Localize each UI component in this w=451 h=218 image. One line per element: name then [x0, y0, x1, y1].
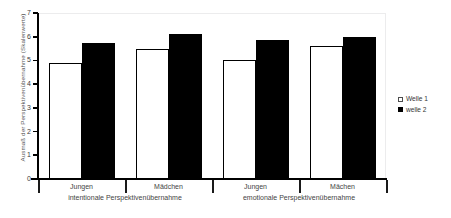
bar-welle-2 [169, 34, 202, 179]
legend-label-welle-1: Welle 1 [406, 96, 428, 103]
x-axis-label: Mächen [299, 183, 386, 191]
group-separator-tick [38, 180, 40, 193]
y-axis-tick-label: 2 [20, 128, 31, 135]
y-axis-tick-label: 1 [20, 151, 31, 158]
x-axis-label: Jungen [212, 183, 299, 191]
bar-group [125, 13, 212, 179]
bar-welle-1 [310, 46, 343, 179]
bar-welle-2 [256, 40, 289, 179]
y-axis-tick-label: 7 [20, 9, 31, 16]
legend-item-welle-2: welle 2 [398, 107, 428, 114]
group-separator-tick [212, 180, 214, 193]
bar-chart: Ausmaß der Perspektivenübernahme (Skalen… [0, 0, 451, 218]
bar-group [212, 13, 299, 179]
y-axis-tick-label: 0 [20, 175, 31, 182]
y-axis-tick-label: 4 [20, 80, 31, 87]
bar-welle-2 [82, 43, 115, 179]
legend-item-welle-1: Welle 1 [398, 96, 428, 103]
bar-welle-1 [223, 60, 256, 179]
group-separator-tick [386, 180, 388, 193]
x-axis-line [31, 178, 387, 180]
bar-welle-1 [49, 63, 82, 179]
x-axis-group-label: emotionale Perspektivenübernahme [212, 194, 386, 201]
legend-label-welle-2: welle 2 [406, 107, 427, 114]
black-square-icon [398, 107, 403, 112]
x-axis-group-label: intentionale Perspektivenübernahme [38, 194, 212, 201]
y-axis-tick-label: 6 [20, 33, 31, 40]
bar-group [299, 13, 386, 179]
x-axis-label: Mädchen [125, 183, 212, 191]
bar-welle-1 [136, 49, 169, 179]
bar-group [38, 13, 125, 179]
group-separator-tick [125, 180, 127, 193]
y-axis-tick-label: 3 [20, 104, 31, 111]
x-axis-label: Jungen [38, 183, 125, 191]
y-axis-tick-label: 5 [20, 56, 31, 63]
chart-legend: Welle 1 welle 2 [398, 96, 428, 117]
white-square-icon [398, 97, 403, 102]
bar-welle-2 [343, 37, 376, 179]
bars-layer [38, 13, 386, 179]
group-separator-tick [299, 180, 301, 193]
